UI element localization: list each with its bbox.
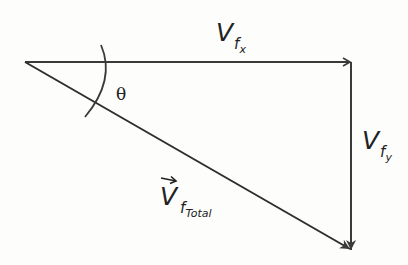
- vector-symbol: V: [160, 184, 177, 209]
- angle-theta-label: θ: [116, 84, 126, 104]
- label-subsubscript: y: [385, 151, 392, 164]
- total-vector-line: [25, 62, 350, 249]
- label-subscript: fTotal: [180, 199, 211, 217]
- horizontal-component-label: Vfx: [216, 20, 246, 45]
- total-vector-label: V fTotal: [160, 184, 212, 209]
- label-main: V: [362, 126, 379, 155]
- label-main: V: [160, 182, 177, 211]
- label-subscript: fx: [234, 35, 246, 53]
- label-subsubscript: Total: [185, 207, 211, 220]
- diagram-canvas: θ Vfx Vfy V fTotal: [0, 0, 408, 265]
- label-subscript: fy: [380, 143, 392, 161]
- vertical-component-label: Vfy: [362, 128, 392, 153]
- label-subsubscript: x: [239, 43, 246, 56]
- label-main: V: [216, 18, 233, 47]
- vector-arrow-icon: [160, 175, 178, 185]
- vector-diagram: [0, 0, 408, 265]
